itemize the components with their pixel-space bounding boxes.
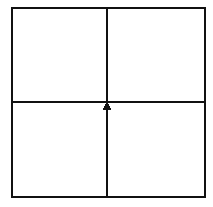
quadrant-top-left <box>13 9 106 101</box>
quadrant-bottom-right <box>108 103 204 196</box>
quadrant-diagram <box>0 0 213 207</box>
quadrant-top-right <box>108 9 204 101</box>
figure-root <box>0 0 213 207</box>
quadrant-bottom-left <box>13 103 106 196</box>
